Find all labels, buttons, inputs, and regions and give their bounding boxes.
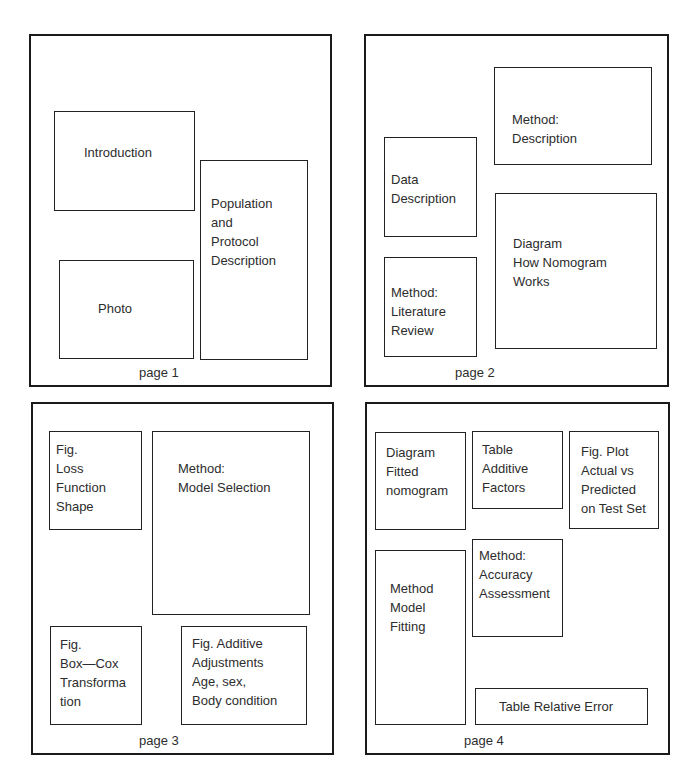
section-photo: Photo	[59, 260, 194, 359]
section-data-description: Data Description	[384, 137, 477, 237]
section-label: Table Relative Error	[499, 697, 613, 716]
section-method-model-selection: Method: Model Selection	[152, 431, 310, 615]
section-label: Method: Accuracy Assessment	[479, 546, 550, 603]
section-table-additive-factors: Table Additive Factors	[472, 431, 563, 509]
section-label: Data Description	[391, 170, 456, 208]
section-label: Method: Literature Review	[391, 283, 446, 340]
section-fig-additive-adjustments: Fig. Additive Adjustments Age, sex, Body…	[181, 626, 307, 725]
page-label: page 1	[139, 365, 179, 380]
page-label: page 4	[464, 733, 504, 748]
section-label: Fig. Additive Adjustments Age, sex, Body…	[192, 634, 277, 710]
section-diagram-how-nomogram-works: Diagram How Nomogram Works	[495, 193, 657, 349]
section-label: Fig. Box—Cox Transforma tion	[60, 635, 126, 711]
section-label: Photo	[98, 299, 132, 318]
section-population-protocol: Population and Protocol Description	[200, 160, 308, 360]
section-label: Population and Protocol Description	[211, 194, 276, 270]
section-method-literature-review: Method: Literature Review	[384, 257, 477, 357]
section-diagram-fitted-nomogram: Diagram Fitted nomogram	[375, 432, 466, 530]
section-table-relative-error: Table Relative Error	[475, 688, 648, 725]
section-label: Method: Description	[512, 110, 577, 148]
section-fig-plot-actual-vs-predicted: Fig. Plot Actual vs Predicted on Test Se…	[569, 431, 659, 529]
section-fig-box-cox: Fig. Box—Cox Transforma tion	[50, 626, 142, 725]
section-label: Table Additive Factors	[482, 440, 528, 497]
section-method-accuracy-assessment: Method: Accuracy Assessment	[472, 539, 563, 637]
section-label: Fig. Plot Actual vs Predicted on Test Se…	[581, 442, 646, 518]
section-label: Introduction	[84, 143, 152, 162]
page-label: page 3	[139, 733, 179, 748]
section-label: Diagram Fitted nomogram	[386, 443, 448, 500]
section-method-model-fitting: Method Model Fitting	[375, 550, 466, 725]
section-label: Method: Model Selection	[178, 459, 271, 497]
section-introduction: Introduction	[54, 111, 195, 211]
section-fig-loss-function-shape: Fig. Loss Function Shape	[49, 431, 142, 530]
section-label: Fig. Loss Function Shape	[56, 440, 106, 516]
section-label: Method Model Fitting	[390, 579, 433, 636]
section-label: Diagram How Nomogram Works	[513, 234, 607, 291]
page-label: page 2	[455, 365, 495, 380]
section-method-description: Method: Description	[494, 67, 652, 165]
